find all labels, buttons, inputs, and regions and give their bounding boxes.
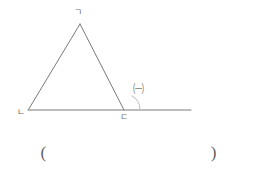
answer-blank: ( ) [0,138,257,166]
circled-angle-mark-icon: ㈠ [133,84,144,95]
answer-input-area[interactable] [46,145,211,159]
vertex-label-bottom-left: ㄴ [17,108,25,117]
vertex-label-apex: ㄱ [74,8,82,17]
vertex-label-bottom-right: ㄷ [120,113,128,122]
geometry-figure-page: ㄱ ㄴ ㄷ ㈠ ( ) [0,0,257,179]
close-paren: ) [211,144,217,161]
triangle-side-right [80,24,124,110]
answer-blank-inner: ( ) [41,144,217,161]
triangle-side-left [29,24,81,110]
exterior-angle-arc [131,96,140,110]
